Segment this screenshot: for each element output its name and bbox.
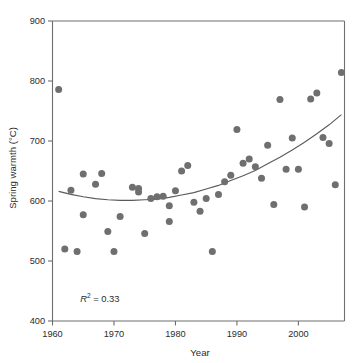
data-point [166,218,173,225]
data-point [313,90,320,97]
data-point [67,187,74,194]
x-tick-label: 2000 [288,329,308,339]
data-point [141,230,148,237]
annotation-r-squared: R2 = 0.33 [80,292,119,304]
data-point [283,166,290,173]
data-point [61,246,68,253]
y-tick-label: 800 [30,76,45,86]
data-point [295,166,302,173]
data-point [98,170,105,177]
data-point [252,163,259,170]
chart-figure: 40050060070080090019601970198019902000 R… [0,0,359,363]
data-point [166,202,173,209]
data-point [227,172,234,179]
data-points [55,69,345,255]
x-tick-label: 1990 [227,329,247,339]
data-point [190,199,197,206]
data-point [197,208,204,215]
data-point [184,162,191,169]
data-point [117,213,124,220]
trend-curve [59,115,342,201]
y-axis-title: Spring warmth (°C) [7,127,18,209]
data-point [240,160,247,167]
data-point [110,248,117,255]
data-point [80,171,87,178]
data-point [246,156,253,163]
data-point [326,140,333,147]
data-point [178,168,185,175]
data-point [135,189,142,196]
data-point [301,204,308,211]
data-point [129,184,136,191]
data-point [160,193,167,200]
data-point [74,248,81,255]
y-tick-label: 400 [30,316,45,326]
x-tick-label: 1970 [104,329,124,339]
data-point [215,191,222,198]
data-point [209,248,216,255]
data-point [172,187,179,194]
data-point [233,126,240,133]
y-tick-label: 500 [30,256,45,266]
data-point [154,193,161,200]
data-point [264,142,271,149]
data-point [332,181,339,188]
data-point [276,96,283,103]
data-point [338,69,345,76]
y-tick-label: 900 [30,16,45,26]
fit-curve [59,115,342,201]
chart-annotations: R2 = 0.33 [80,292,119,304]
x-tick-label: 1980 [165,329,185,339]
data-point [80,211,87,218]
r-squared-text: R2 = 0.33 [80,292,119,304]
data-point [92,181,99,188]
data-point [289,135,296,142]
y-tick-label: 700 [30,136,45,146]
data-point [55,86,62,93]
data-point [258,175,265,182]
x-axis-title: Year [190,347,210,358]
y-tick-label: 600 [30,196,45,206]
data-point [270,201,277,208]
scatter-plot: 40050060070080090019601970198019902000 R… [0,0,359,363]
data-point [307,96,314,103]
data-point [104,228,111,235]
data-point [221,178,228,185]
data-point [203,195,210,202]
data-point [319,134,326,141]
r-value: = 0.33 [91,293,120,304]
data-point [147,195,154,202]
tick-labels: 40050060070080090019601970198019902000 [30,16,309,338]
x-tick-label: 1960 [42,329,62,339]
